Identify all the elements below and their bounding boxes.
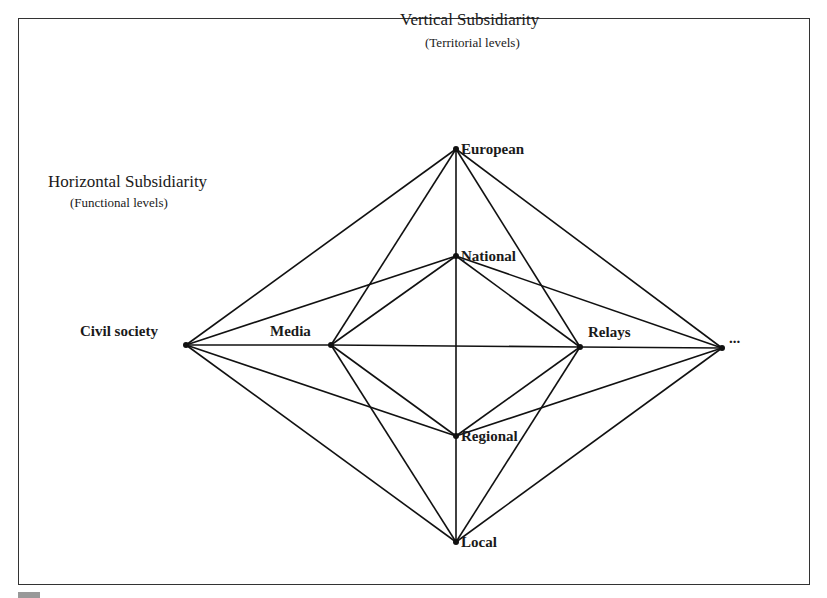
edge-more-local bbox=[456, 348, 722, 542]
node-dot-relays bbox=[577, 344, 583, 350]
horizontal-subsidiarity-title: Horizontal Subsidiarity bbox=[48, 172, 207, 192]
edge-media-regional bbox=[331, 345, 456, 436]
vertical-subsidiarity-subtitle: (Territorial levels) bbox=[425, 35, 520, 51]
node-label-regional: Regional bbox=[461, 428, 518, 445]
edge-civil_society-european bbox=[186, 149, 456, 345]
edge-civil_society-regional bbox=[186, 345, 456, 436]
node-dot-european bbox=[453, 146, 459, 152]
node-label-european: European bbox=[461, 141, 524, 158]
caption-fragment bbox=[18, 592, 40, 598]
node-dot-regional bbox=[453, 433, 459, 439]
edge-relays-regional bbox=[456, 347, 580, 436]
node-label-relays: Relays bbox=[588, 324, 631, 341]
edge-civil_society-national bbox=[186, 256, 456, 345]
subsidiarity-network bbox=[0, 0, 827, 598]
node-label-local: Local bbox=[461, 534, 497, 551]
node-label-more: ... bbox=[729, 330, 740, 347]
edge-media-european bbox=[331, 149, 456, 345]
vertical-subsidiarity-title: Vertical Subsidiarity bbox=[400, 10, 539, 30]
node-label-media: Media bbox=[270, 323, 311, 340]
node-label-civil-society: Civil society bbox=[80, 323, 158, 340]
edge-media-local bbox=[331, 345, 456, 542]
node-dot-more bbox=[719, 345, 725, 351]
edge-relays-more bbox=[580, 347, 722, 348]
node-dot-local bbox=[453, 539, 459, 545]
edge-civil_society-local bbox=[186, 345, 456, 542]
edge-media-national bbox=[331, 256, 456, 345]
node-dot-national bbox=[453, 253, 459, 259]
node-dot-media bbox=[328, 342, 334, 348]
edge-relays-national bbox=[456, 256, 580, 347]
node-label-national: National bbox=[461, 248, 516, 265]
edge-more-regional bbox=[456, 348, 722, 436]
horizontal-subsidiarity-subtitle: (Functional levels) bbox=[70, 195, 168, 211]
node-dot-civil_society bbox=[183, 342, 189, 348]
